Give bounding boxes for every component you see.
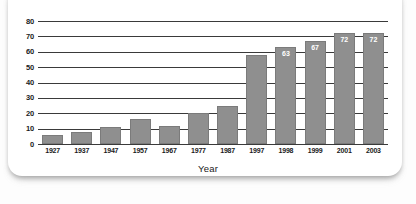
- x-axis-tick-label: 1957: [126, 147, 155, 154]
- bar-value-label: 67: [306, 44, 325, 51]
- x-axis-tick-label: 1987: [213, 147, 242, 154]
- bar[interactable]: 72: [334, 33, 355, 144]
- bar[interactable]: 63: [275, 47, 296, 144]
- x-axis-tick-label: 2003: [359, 147, 388, 154]
- y-axis-tick-label: 40: [13, 78, 34, 87]
- bar[interactable]: 72: [363, 33, 384, 144]
- x-axis-tick-label: 1937: [67, 147, 96, 154]
- x-axis-tick-label: 1947: [96, 147, 125, 154]
- bar[interactable]: [130, 119, 151, 144]
- bar[interactable]: [42, 135, 63, 144]
- y-axis-tick-label: 0: [13, 140, 34, 149]
- y-axis-tick-label: 10: [13, 124, 34, 133]
- chart-figure: 01020304050607080 63677272 1927193719471…: [0, 0, 416, 204]
- bar-chart-plot: 01020304050607080 63677272 1927193719471…: [0, 0, 416, 204]
- x-axis-tick-label: 1977: [184, 147, 213, 154]
- x-axis-tick-label: 1999: [301, 147, 330, 154]
- y-axis-tick-label: 70: [13, 32, 34, 41]
- y-axis-tick-label: 30: [13, 93, 34, 102]
- bar-value-label: 63: [276, 50, 295, 57]
- bar[interactable]: [217, 106, 238, 144]
- y-axis-tick-label: 80: [13, 17, 34, 26]
- y-axis-tick-label: 50: [13, 63, 34, 72]
- bar-value-label: 72: [335, 36, 354, 43]
- x-axis-tick-label: 1998: [271, 147, 300, 154]
- y-axis-tick-label: 60: [13, 47, 34, 56]
- bar[interactable]: [246, 55, 267, 144]
- gridline: [38, 21, 388, 22]
- bar[interactable]: 67: [305, 41, 326, 144]
- bar[interactable]: [71, 132, 92, 144]
- x-axis-title: Year: [0, 163, 416, 174]
- gridline: [38, 144, 388, 145]
- x-axis-tick-label: 1967: [155, 147, 184, 154]
- bar[interactable]: [100, 127, 121, 144]
- bar-value-label: 72: [364, 36, 383, 43]
- bar[interactable]: [159, 126, 180, 144]
- x-axis-tick-label: 1927: [38, 147, 67, 154]
- y-axis-tick-label: 20: [13, 109, 34, 118]
- x-axis-tick-label: 2001: [330, 147, 359, 154]
- x-axis-tick-label: 1997: [242, 147, 271, 154]
- bar[interactable]: [188, 113, 209, 144]
